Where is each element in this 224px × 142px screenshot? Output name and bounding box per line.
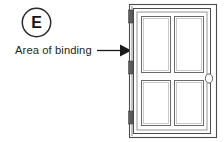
door-diagram-svg: E Area of binding <box>0 0 224 142</box>
top-hinge-icon <box>129 10 134 23</box>
annotation-label: Area of binding <box>15 44 92 56</box>
middle-hinge-icon <box>129 61 134 74</box>
upper-left-panel-bevel <box>144 19 169 71</box>
upper-right-panel-bevel <box>177 19 202 71</box>
figure-container: E Area of binding <box>0 0 224 142</box>
lower-right-panel-bevel <box>177 83 202 124</box>
door-knob <box>205 74 212 83</box>
panel-letter-badge: E <box>22 8 50 36</box>
panel-letter: E <box>31 14 42 31</box>
lower-left-panel-bevel <box>144 83 169 124</box>
door-knob-icon <box>205 74 212 83</box>
bottom-hinge-icon <box>129 111 134 124</box>
